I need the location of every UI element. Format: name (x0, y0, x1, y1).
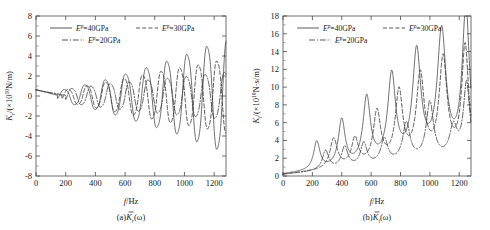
y-tick-label: 14 (271, 47, 280, 57)
y-tick-label: 4 (28, 51, 33, 61)
x-tick-label: 1000 (421, 178, 438, 188)
y-tick-label: -4 (25, 131, 33, 141)
y-tick-label: 6 (275, 118, 279, 128)
legend-label-3: Ep=20GPa (334, 35, 368, 45)
panel-b-plot: 020040060080010001200024681012141618 Ep=… (245, 0, 490, 230)
panel-caption: (a)Kr(ω) (117, 212, 146, 224)
panel-b-legend: Ep=40GPaEp=30GPaEp=20GPa (297, 23, 442, 45)
y-tick-label: -6 (25, 151, 32, 161)
x-tick-label: 0 (281, 178, 285, 188)
panel-caption: (b)Ki(ω) (363, 212, 392, 224)
y-tick-label: 18 (271, 11, 280, 21)
panel-b-labels: f/HzKi/(×1010N·s/m)(b)Ki(ω) (245, 68, 391, 224)
legend-label-1: Ep=40GPa (322, 23, 356, 33)
y-axis-title: Kr/(×1010N/m) (4, 71, 16, 122)
x-tick-label: 400 (335, 178, 348, 188)
x-tick-label: 1200 (451, 178, 468, 188)
x-tick-label: 0 (34, 178, 38, 188)
panel-a-labels: f/HzKr/(×1010N/m)(a)Kr(ω) (0, 71, 145, 224)
x-tick-label: 1200 (206, 178, 223, 188)
legend-label-2: Ep=30GPa (408, 23, 442, 33)
y-axis-title: Ki/(×1010N·s/m) (251, 68, 263, 124)
panel-b-ticks: 020040060080010001200024681012141618 (271, 11, 472, 188)
x-tick-label: 800 (394, 178, 407, 188)
y-tick-label: 2 (275, 153, 279, 163)
figure-container: 020040060080010001200-8-6-4-202468 Ep=40… (0, 0, 490, 230)
y-tick-label: 6 (28, 31, 32, 41)
x-tick-label: 400 (89, 178, 102, 188)
x-tick-label: 1000 (176, 178, 193, 188)
x-axis-title: f/Hz (124, 196, 139, 206)
series-line-1 (36, 41, 226, 149)
x-axis-title: f/Hz (370, 196, 385, 206)
y-tick-label: -2 (25, 111, 32, 121)
panel-a-legend: Ep=40GPaEp=30GPaEp=20GPa (50, 23, 195, 45)
panel-a-ticks: 020040060080010001200-8-6-4-202468 (25, 11, 226, 188)
panel-a-curves (36, 41, 226, 149)
x-tick-label: 200 (59, 178, 72, 188)
x-tick-label: 800 (148, 178, 161, 188)
legend-label-3: Ep=20GPa (87, 35, 121, 45)
y-tick-label: 0 (275, 171, 279, 181)
y-tick-label: -8 (25, 171, 32, 181)
y-tick-label: 0 (28, 91, 32, 101)
y-tick-label: 8 (28, 11, 32, 21)
y-tick-label: 16 (271, 29, 280, 39)
x-tick-label: 200 (306, 178, 319, 188)
y-tick-label: 4 (275, 135, 280, 145)
y-tick-label: 12 (271, 64, 280, 74)
panel-b: 020040060080010001200024681012141618 Ep=… (245, 0, 490, 230)
x-tick-label: 600 (365, 178, 378, 188)
panel-a-plot: 020040060080010001200-8-6-4-202468 Ep=40… (0, 0, 245, 230)
y-tick-label: 10 (271, 82, 280, 92)
legend-label-2: Ep=30GPa (161, 23, 195, 33)
y-tick-label: 2 (28, 71, 32, 81)
series-line-2 (283, 43, 471, 174)
legend-label-1: Ep=40GPa (75, 23, 109, 33)
x-tick-label: 600 (119, 178, 132, 188)
y-tick-label: 8 (275, 100, 279, 110)
panel-a: 020040060080010001200-8-6-4-202468 Ep=40… (0, 0, 245, 230)
